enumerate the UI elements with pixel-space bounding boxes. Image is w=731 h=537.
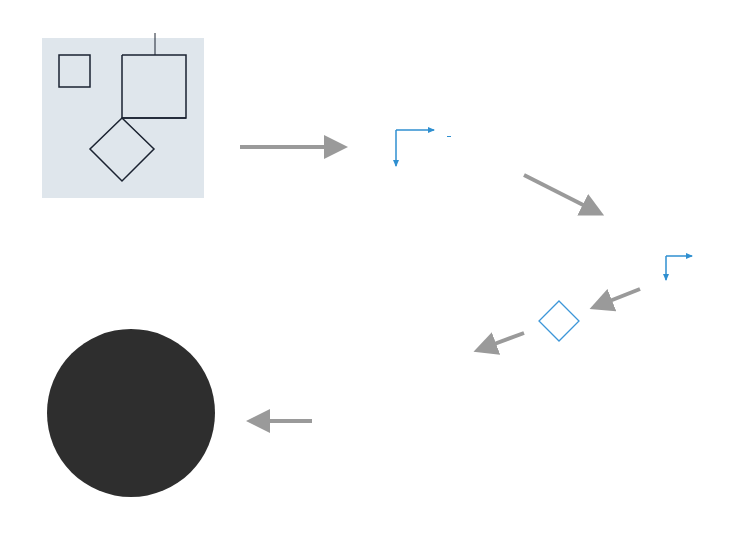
leed-pattern <box>47 329 215 497</box>
ratio-numerator <box>447 136 451 137</box>
arrow-establish-root2 <box>524 175 597 212</box>
reciprocal-vectors-root2 <box>666 256 692 280</box>
ratio-fraction <box>447 136 451 137</box>
diagram-canvas <box>0 0 731 537</box>
arrow-draw-meshes <box>481 333 524 349</box>
rotated-reciprocal-cell <box>539 301 579 341</box>
real-mesh-surface <box>42 33 204 198</box>
arrow-rotate-45 <box>597 289 640 306</box>
reciprocal-vectors-1x1 <box>396 130 434 166</box>
